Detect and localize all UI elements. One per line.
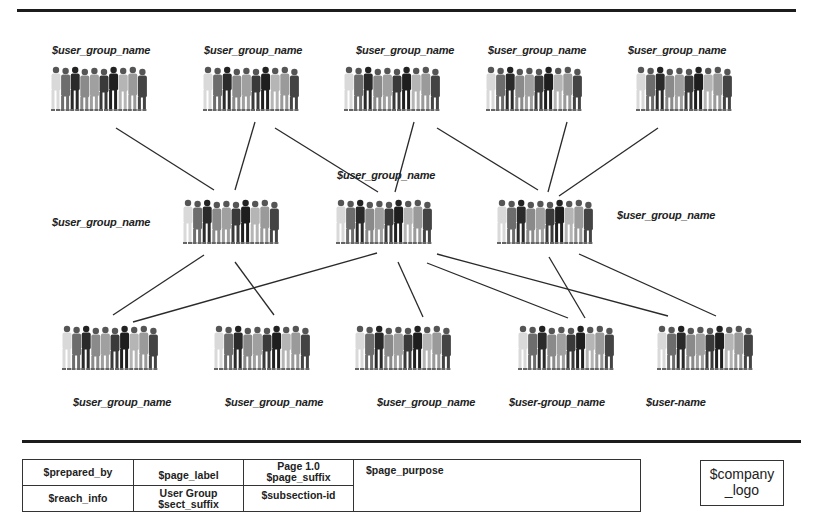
middle-group-icon[interactable] (497, 196, 601, 246)
bottom-group-label: $user-group_name (509, 396, 605, 408)
people-group-icon (497, 196, 601, 246)
company-logo-box: $company _logo (700, 460, 784, 506)
top-group-label: $user_group_name (356, 44, 454, 56)
connection-line-top-2-to-middle-2 (437, 128, 538, 190)
page-label-text: $page_label (158, 469, 218, 481)
people-group-icon (62, 322, 166, 372)
bottom-group-icon[interactable] (355, 322, 459, 372)
top-group-label: $user_group_name (488, 44, 586, 56)
people-group-icon (636, 63, 740, 113)
connection-line-top-0-to-middle-0 (116, 128, 214, 190)
top-group-label: $user_group_name (52, 44, 150, 56)
page-purpose-box: $page_purpose (353, 459, 641, 512)
people-group-icon (51, 63, 155, 113)
top-group-icon[interactable] (51, 63, 155, 113)
people-group-icon (518, 322, 622, 372)
bottom-group-label: $user_group_name (73, 396, 171, 408)
top-group-icon[interactable] (486, 63, 590, 113)
company-logo-line2: _logo (701, 482, 783, 498)
footer-rule (22, 440, 801, 443)
top-group-icon[interactable] (344, 63, 448, 113)
bottom-group-icon[interactable] (62, 322, 166, 372)
page-purpose-text: $page_purpose (366, 464, 444, 476)
bottom-group-label: $user_group_name (377, 396, 475, 408)
bottom-group-icon[interactable] (657, 322, 761, 372)
title-block-table: $prepared_by $page_label Page 1.0 $page_… (22, 459, 354, 512)
middle-group-label: $user_group_name (52, 216, 150, 228)
connection-line-top-4-to-middle-2 (559, 128, 658, 196)
bottom-group-label: $user-name (646, 396, 706, 408)
people-group-icon (657, 322, 761, 372)
people-group-icon (344, 63, 448, 113)
people-group-icon (486, 63, 590, 113)
connection-line-middle-0-to-bottom-1 (235, 262, 274, 315)
company-logo-line1: $company (701, 466, 783, 482)
top-group-icon[interactable] (636, 63, 740, 113)
connection-line-middle-1-to-bottom-2 (398, 262, 423, 317)
prepared-by-text: $prepared_by (44, 466, 113, 478)
connection-line-middle-1-to-bottom-3 (427, 263, 568, 318)
people-group-icon (214, 322, 318, 372)
people-group-icon (336, 196, 440, 246)
people-group-icon (183, 196, 287, 246)
middle-group-icon[interactable] (336, 196, 440, 246)
connection-line-middle-2-to-bottom-4 (579, 254, 716, 316)
middle-group-label: $user_group_name (337, 169, 435, 181)
connection-line-top-1-to-middle-0 (235, 122, 255, 190)
page-number-cell: Page 1.0 $page_suffix (244, 460, 354, 486)
subsection-cell: $subsection-id (244, 486, 354, 512)
bottom-group-label: $user_group_name (225, 396, 323, 408)
connection-line-middle-1-to-bottom-0 (133, 253, 377, 322)
page-suffix-text: $page_suffix (244, 472, 353, 483)
section-cell: User Group $sect_suffix (134, 486, 244, 512)
top-group-label: $user_group_name (204, 44, 302, 56)
connection-line-top-1-to-middle-1 (275, 128, 378, 192)
middle-group-icon[interactable] (183, 196, 287, 246)
top-group-icon[interactable] (203, 63, 307, 113)
prepared-by-cell: $prepared_by (23, 460, 134, 486)
connection-line-middle-2-to-bottom-3 (549, 257, 585, 318)
subsection-id-text: $subsection-id (261, 489, 335, 501)
connection-line-top-3-to-middle-2 (548, 122, 567, 192)
page-label-cell: $page_label (134, 460, 244, 486)
sect-suffix-text: $sect_suffix (134, 499, 243, 510)
people-group-icon (355, 322, 459, 372)
bottom-group-icon[interactable] (214, 322, 318, 372)
top-group-label: $user_group_name (628, 44, 726, 56)
middle-group-label: $user_group_name (617, 209, 715, 221)
reach-info-cell: $reach_info (23, 486, 134, 512)
bottom-group-icon[interactable] (518, 322, 622, 372)
connection-line-top-2-to-middle-1 (395, 122, 414, 192)
reach-info-text: $reach_info (49, 492, 108, 504)
people-group-icon (203, 63, 307, 113)
